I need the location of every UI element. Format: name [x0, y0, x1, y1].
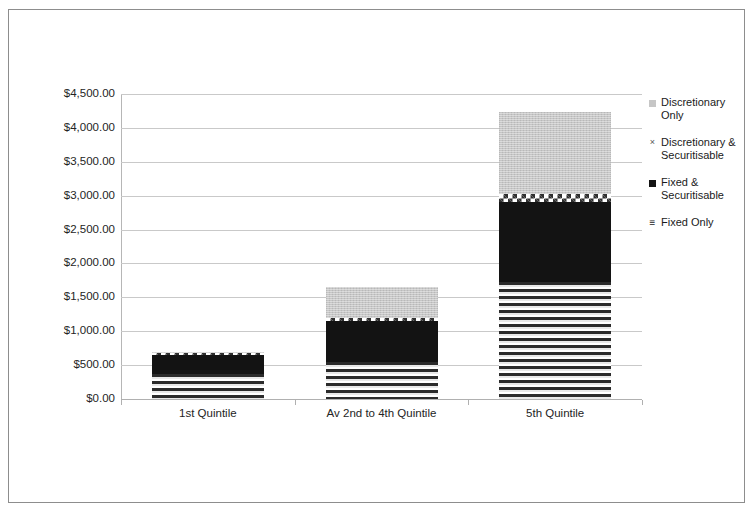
bar-av-2nd-to-4th-quintile[interactable]	[326, 287, 438, 400]
legend-label-line2: Securitisable	[661, 149, 745, 162]
legend-square-icon	[649, 100, 656, 107]
legend-label-line1: Fixed Only	[661, 216, 745, 229]
y-axis-tick-label: $1,500.00	[15, 291, 115, 302]
legend-label: Fixed Only	[661, 216, 745, 229]
y-axis-tick-label: $3,000.00	[15, 190, 115, 201]
bar-segment-fixed-securitisable[interactable]	[326, 321, 438, 362]
bar-segment-discretionary-only[interactable]	[499, 112, 611, 193]
legend-label-line1: Discretionary &	[661, 136, 745, 149]
legend-square-icon	[649, 180, 656, 187]
y-axis-tick-label: $0.00	[15, 393, 115, 404]
y-axis-tick-label: $2,500.00	[15, 224, 115, 235]
legend-x-mark-icon: ×	[648, 138, 657, 147]
y-axis-tick-label: $2,000.00	[15, 257, 115, 268]
legend-label-line1: Discretionary	[661, 96, 745, 109]
bar-segment-discretionary-securitisable[interactable]	[152, 353, 264, 355]
y-axis-tick-label: $3,500.00	[15, 156, 115, 167]
y-axis-tick-label: $4,500.00	[15, 88, 115, 99]
bar-segment-fixed-only[interactable]	[326, 362, 438, 399]
gridline	[121, 94, 642, 95]
bar-segment-discretionary-only[interactable]	[326, 287, 438, 318]
legend-label-line1: Fixed &	[661, 176, 745, 189]
y-axis-tick-label: $500.00	[15, 359, 115, 370]
x-axis-tick	[295, 400, 296, 405]
x-axis-category-label: 5th Quintile	[468, 407, 642, 419]
bar-segment-discretionary-only[interactable]	[152, 352, 264, 353]
bar-segment-discretionary-securitisable[interactable]	[499, 194, 611, 203]
x-axis-tick	[468, 400, 469, 405]
y-axis-tick-label: $1,000.00	[15, 325, 115, 336]
legend-three-lines-icon: ≡	[648, 217, 657, 228]
legend-label: Discretionary &Securitisable	[661, 136, 745, 161]
x-axis-tick	[121, 400, 122, 405]
legend-label: Fixed &Securitisable	[661, 176, 745, 201]
gridline	[121, 399, 642, 400]
bar-segment-fixed-only[interactable]	[499, 282, 611, 399]
bar-5th-quintile[interactable]	[499, 112, 611, 399]
bar-segment-fixed-only[interactable]	[152, 374, 264, 399]
stacked-bar-chart: $4,500.00$4,000.00$3,500.00$3,000.00$2,5…	[9, 10, 746, 504]
bar-segment-fixed-securitisable[interactable]	[152, 355, 264, 374]
bar-segment-fixed-securitisable[interactable]	[499, 202, 611, 281]
legend-label-line2: Only	[661, 109, 745, 122]
legend-label: DiscretionaryOnly	[661, 96, 745, 121]
bar-1st-quintile[interactable]	[152, 352, 264, 399]
bar-segment-discretionary-securitisable[interactable]	[326, 318, 438, 321]
plot-area	[121, 94, 642, 399]
chart-frame: $4,500.00$4,000.00$3,500.00$3,000.00$2,5…	[8, 9, 745, 503]
x-axis-category-label: Av 2nd to 4th Quintile	[295, 407, 469, 419]
x-axis-category-label: 1st Quintile	[121, 407, 295, 419]
y-axis-tick-label: $4,000.00	[15, 122, 115, 133]
x-axis-tick	[642, 400, 643, 405]
y-axis-labels: $4,500.00$4,000.00$3,500.00$3,000.00$2,5…	[9, 10, 115, 410]
legend-label-line2: Securitisable	[661, 189, 745, 202]
